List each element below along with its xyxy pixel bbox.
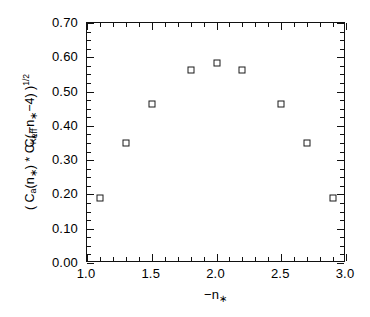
y-minor-tick-right <box>340 49 344 50</box>
x-major-tick <box>281 254 282 261</box>
x-minor-tick <box>242 257 243 261</box>
x-major-tick <box>152 254 153 261</box>
x-minor-tick-top <box>294 23 295 27</box>
y-minor-tick <box>87 152 91 153</box>
y-major-tick <box>87 92 94 93</box>
data-point-marker <box>122 140 129 147</box>
y-major-tick <box>87 126 94 127</box>
x-minor-tick <box>268 257 269 261</box>
x-minor-tick <box>229 257 230 261</box>
y-minor-tick <box>87 169 91 170</box>
x-minor-tick-top <box>178 23 179 27</box>
x-major-tick-top <box>281 23 282 30</box>
x-minor-tick-top <box>333 23 334 27</box>
y-minor-tick-right <box>340 32 344 33</box>
y-minor-tick-right <box>340 66 344 67</box>
y-minor-tick <box>87 83 91 84</box>
y-title-open-paren: ( <box>23 202 37 210</box>
y-title-arg1-open: (n <box>23 177 37 188</box>
x-minor-tick <box>255 257 256 261</box>
y-major-tick <box>87 23 94 24</box>
y-minor-tick <box>87 32 91 33</box>
x-tick-label: 1.0 <box>77 266 96 281</box>
y-minor-tick <box>87 143 91 144</box>
y-minor-tick-right <box>340 237 344 238</box>
y-title-arg1-close: ) <box>23 165 37 169</box>
y-major-tick-right <box>337 229 344 230</box>
y-minor-tick <box>87 212 91 213</box>
y-title-c-a-subscript: a <box>28 188 38 193</box>
x-major-tick-top <box>152 23 153 30</box>
data-point-marker <box>330 194 337 201</box>
y-major-tick-right <box>337 194 344 195</box>
y-title-c-a: C <box>23 193 37 202</box>
x-minor-tick-top <box>255 23 256 27</box>
x-minor-tick <box>113 257 114 261</box>
y-minor-tick <box>87 40 91 41</box>
y-title-arg1-star: ∗ <box>28 169 39 177</box>
x-minor-tick <box>178 257 179 261</box>
x-minor-tick-top <box>307 23 308 27</box>
y-minor-tick <box>87 237 91 238</box>
data-point-marker <box>213 60 220 67</box>
y-minor-tick-right <box>340 83 344 84</box>
y-title-times: * <box>23 153 37 165</box>
data-point-marker <box>148 100 155 107</box>
x-major-tick-top <box>346 23 347 30</box>
y-major-tick <box>87 57 94 58</box>
x-minor-tick <box>294 257 295 261</box>
data-point-marker <box>304 140 311 147</box>
y-title-close-paren: ) <box>23 86 37 94</box>
y-minor-tick-right <box>340 169 344 170</box>
y-title-exponent: 1/2 <box>21 74 31 86</box>
x-major-tick-top <box>87 23 88 30</box>
y-minor-tick-right <box>340 186 344 187</box>
x-major-tick-top <box>217 23 218 30</box>
y-title-c-k-subscript: K <box>28 138 38 144</box>
y-minor-tick-right <box>340 177 344 178</box>
y-major-tick-right <box>337 92 344 93</box>
y-minor-tick <box>87 117 91 118</box>
x-tick-label: 3.0 <box>336 266 355 281</box>
x-minor-tick <box>100 257 101 261</box>
y-minor-tick <box>87 186 91 187</box>
y-minor-tick <box>87 49 91 50</box>
data-point-marker <box>96 194 103 201</box>
x-minor-tick <box>320 257 321 261</box>
x-minor-tick-top <box>126 23 127 27</box>
x-minor-tick <box>333 257 334 261</box>
y-title-arg2-close: ) <box>23 93 37 97</box>
y-minor-tick-right <box>340 134 344 135</box>
x-tick-label: 2.5 <box>271 266 290 281</box>
y-minor-tick <box>87 74 91 75</box>
y-minor-tick-right <box>340 117 344 118</box>
y-minor-tick-right <box>340 74 344 75</box>
x-tick-label: 2.0 <box>206 266 225 281</box>
y-minor-tick-right <box>340 254 344 255</box>
x-title-symbol: n <box>212 287 219 302</box>
y-minor-tick-right <box>340 220 344 221</box>
y-minor-tick-right <box>340 246 344 247</box>
x-minor-tick-top <box>165 23 166 27</box>
y-title-c-k: C <box>23 144 37 153</box>
x-minor-tick-top <box>268 23 269 27</box>
y-major-tick <box>87 263 94 264</box>
y-major-tick-right <box>337 126 344 127</box>
y-minor-tick-right <box>340 100 344 101</box>
y-minor-tick-right <box>340 109 344 110</box>
x-minor-tick <box>204 257 205 261</box>
y-minor-tick <box>87 177 91 178</box>
x-minor-tick <box>191 257 192 261</box>
y-minor-tick <box>87 100 91 101</box>
y-axis-title: ( Ca(n∗) * CK(−n∗−4) )1/2 <box>21 74 38 210</box>
y-minor-tick-right <box>340 40 344 41</box>
y-title-arg2-star: ∗ <box>28 112 39 120</box>
x-minor-tick <box>126 257 127 261</box>
y-major-tick <box>87 160 94 161</box>
y-minor-tick <box>87 246 91 247</box>
y-major-tick-right <box>337 263 344 264</box>
y-title-arg2-open: (−n <box>23 120 37 138</box>
y-minor-tick-right <box>340 203 344 204</box>
x-title-minus: − <box>204 287 212 302</box>
data-point-marker <box>278 101 285 108</box>
